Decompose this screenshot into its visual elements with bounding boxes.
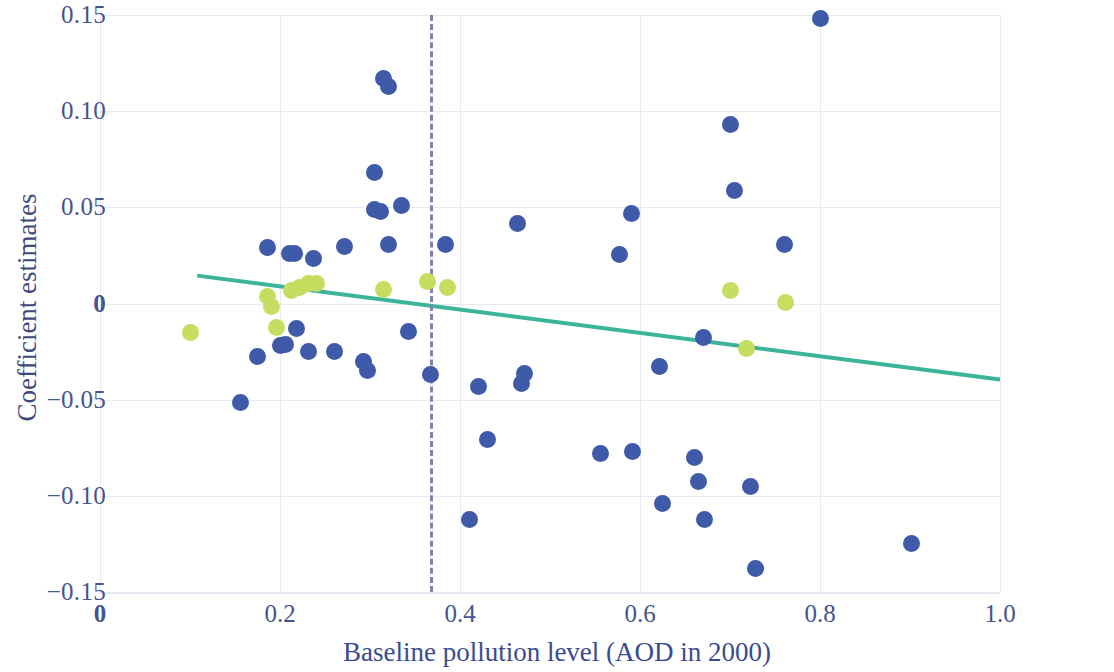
x-tick-label: 0.6: [580, 600, 700, 627]
data-point: [776, 236, 793, 253]
data-point: [738, 340, 755, 357]
data-point: [623, 205, 640, 222]
x-axis-title: Baseline pollution level (AOD in 2000): [0, 637, 1114, 668]
x-tick-label: 0.4: [400, 600, 520, 627]
data-point: [695, 329, 712, 346]
data-point: [722, 116, 739, 133]
data-point: [232, 394, 249, 411]
data-point: [812, 10, 829, 27]
data-point: [268, 319, 285, 336]
data-point: [690, 473, 707, 490]
y-tick-label: −0.10: [0, 483, 106, 508]
plot-area: [100, 15, 1000, 592]
data-point: [696, 511, 713, 528]
y-tick-label: 0: [0, 291, 106, 316]
data-point: [375, 281, 392, 298]
data-point: [259, 239, 276, 256]
data-point: [722, 282, 739, 299]
data-point: [747, 560, 764, 577]
y-tick-label: 0.10: [0, 98, 106, 123]
x-tick-label: 1.0: [940, 600, 1060, 627]
data-point: [686, 449, 703, 466]
data-point: [611, 246, 628, 263]
y-tick-label: 0.05: [0, 194, 106, 219]
y-tick-label: −0.05: [0, 387, 106, 412]
data-point: [249, 348, 266, 365]
gridline-vertical: [1000, 15, 1001, 592]
y-tick-label: 0.15: [0, 2, 106, 27]
vertical-threshold-line: [430, 15, 433, 592]
data-point: [359, 362, 376, 379]
x-tick-label: 0.8: [760, 600, 880, 627]
data-point: [654, 495, 671, 512]
data-point: [516, 365, 533, 382]
data-point: [419, 273, 436, 290]
data-point: [422, 366, 439, 383]
data-point: [308, 275, 325, 292]
scatter-chart: Coefficient estimates Baseline pollution…: [0, 0, 1114, 672]
data-point: [380, 78, 397, 95]
data-point: [288, 320, 305, 337]
trendline: [100, 15, 1000, 592]
data-point: [439, 279, 456, 296]
data-point: [479, 431, 496, 448]
data-point: [461, 511, 478, 528]
data-point: [263, 298, 280, 315]
x-tick-label: 0: [40, 600, 160, 627]
x-tick-label: 0.2: [220, 600, 340, 627]
data-point: [326, 343, 343, 360]
gridline-horizontal: [100, 592, 1000, 593]
data-point: [470, 378, 487, 395]
data-point: [305, 250, 322, 267]
data-point: [624, 443, 641, 460]
data-point: [182, 324, 199, 341]
